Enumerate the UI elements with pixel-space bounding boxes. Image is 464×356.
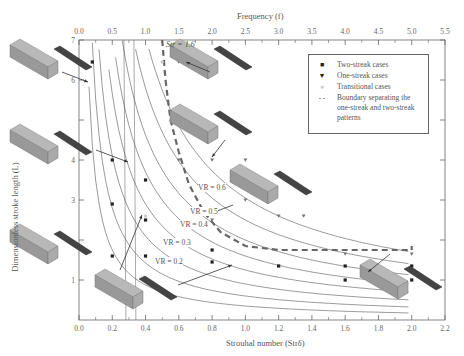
y-tick-label: 1	[63, 276, 75, 285]
arrowhead-icon	[84, 79, 88, 82]
x2-tick-label: 3.0	[274, 27, 283, 36]
y-tick-label: 6	[63, 76, 75, 85]
x-tick-label: 1.4	[307, 324, 316, 333]
vr-label-0.4: VR = 0.4	[180, 220, 208, 229]
x-tick-label: 0.8	[207, 324, 216, 333]
x-tick-label: 0.0	[74, 324, 83, 333]
x-tick-label: 0.2	[108, 324, 117, 333]
one-streak-marker	[243, 159, 247, 162]
two-streak-marker	[91, 60, 94, 63]
iso-curve	[124, 40, 126, 320]
light-circle-marker-icon: ●	[315, 82, 329, 92]
x2-tick-label: 4.0	[340, 27, 349, 36]
x2-tick-label: 5.5	[440, 27, 449, 36]
two-streak-marker	[210, 248, 213, 251]
x-tick-label: 1.0	[241, 324, 250, 333]
two-streak-marker	[144, 218, 147, 221]
two-streak-marker	[111, 254, 114, 257]
two-streak-marker	[344, 264, 347, 267]
streak-visualization-thumbnail	[230, 164, 312, 204]
x2-tick-label: 0.0	[74, 27, 83, 36]
x2-tick-label: 4.5	[374, 27, 383, 36]
chart-area: Frequency (f) Strouhal number (Strδ) Dim…	[0, 0, 464, 356]
y-tick-label: 3	[63, 196, 75, 205]
square-marker-icon: ■	[315, 60, 329, 70]
streak-visualization-thumbnail	[10, 224, 92, 264]
one-streak-marker	[210, 159, 214, 162]
streak-visualization-thumbnail	[360, 259, 442, 299]
vr-label-0.2: VR = 0.2	[155, 257, 183, 266]
one-streak-marker	[302, 215, 306, 218]
streak-visualization-thumbnail	[170, 104, 252, 144]
one-streak-marker	[243, 199, 247, 202]
vr-label-0.5: VR = 0.5	[190, 207, 218, 216]
y-tick-label: 7	[63, 36, 75, 45]
legend-item-two-streak: ■ Two-streak cases	[315, 60, 388, 70]
two-streak-marker	[111, 158, 114, 161]
x2-axis-title: Frequency (f)	[237, 11, 284, 21]
x2-tick-label: 2.5	[241, 27, 250, 36]
triangle-down-marker-icon: ▼	[315, 71, 329, 81]
pointer-arrow	[178, 265, 232, 285]
dashed-line-icon: - -	[315, 93, 329, 103]
legend: ■ Two-streak cases ▼ One-streak cases ● …	[308, 54, 429, 134]
legend-item-transitional: ● Transitional cases	[315, 82, 391, 92]
x-tick-label: 0.4	[141, 324, 150, 333]
one-streak-marker	[277, 215, 281, 218]
x2-tick-label: 3.5	[307, 27, 316, 36]
transitional-marker	[160, 60, 164, 64]
x2-tick-label: 5.0	[407, 27, 416, 36]
x2-tick-label: 2.0	[207, 27, 216, 36]
x-tick-label: 2.2	[440, 324, 449, 333]
y-tick-label: 4	[63, 156, 75, 165]
two-streak-marker	[111, 202, 114, 205]
x-tick-label: 1.6	[340, 324, 349, 333]
x-tick-label: 1.2	[274, 324, 283, 333]
two-streak-marker	[410, 278, 413, 281]
x-tick-label: 2.0	[407, 324, 416, 333]
x2-tick-label: 1.5	[174, 27, 183, 36]
x-tick-label: 1.8	[374, 324, 383, 333]
str-annotation: Str = 1.6	[166, 40, 195, 49]
two-streak-marker	[144, 254, 147, 257]
legend-item-one-streak: ▼ One-streak cases	[315, 71, 388, 81]
transitional-marker	[144, 214, 148, 218]
legend-item-boundary: - - Boundary separating the one-streak a…	[315, 93, 425, 123]
x-axis-title: Strouhal number (Strδ)	[226, 338, 305, 348]
vr-label-0.3: VR = 0.3	[163, 238, 191, 247]
x2-tick-label: 0.5	[108, 27, 117, 36]
x2-tick-label: 1.0	[141, 27, 150, 36]
two-streak-marker	[344, 278, 347, 281]
y-axis-title: Dimensionless stroke length (L)	[10, 162, 20, 271]
two-streak-marker	[277, 264, 280, 267]
two-streak-marker	[144, 178, 147, 181]
two-streak-marker	[210, 260, 213, 263]
streak-visualization-thumbnail	[10, 39, 92, 79]
one-streak-marker	[410, 253, 414, 256]
x-tick-label: 0.6	[174, 324, 183, 333]
vr-label-0.6: VR = 0.6	[198, 183, 226, 192]
one-streak-marker	[343, 253, 347, 256]
arrowhead-icon	[139, 215, 142, 219]
pointer-arrow	[120, 215, 142, 270]
streak-visualization-thumbnail	[10, 124, 92, 164]
